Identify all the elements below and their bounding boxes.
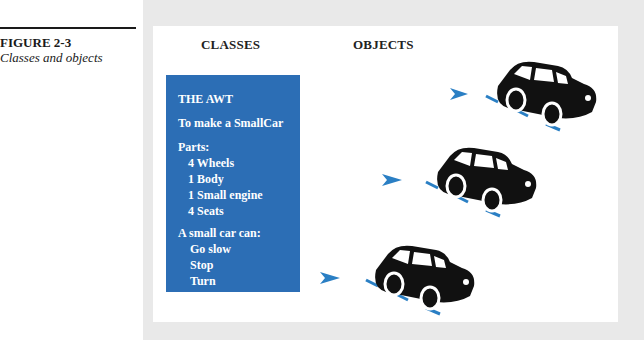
car-object-2: [380, 142, 550, 224]
class-title: THE AWT: [178, 92, 233, 107]
car-icon: [437, 148, 536, 211]
figure-rule: [0, 27, 136, 29]
arrow-icon: [382, 174, 402, 186]
abilities-label: A small car can:: [178, 226, 261, 241]
ability-item: Turn: [190, 274, 216, 289]
classes-header: CLASSES: [201, 37, 260, 53]
class-box: THE AWT To make a SmallCar Parts: 4 Whee…: [166, 75, 300, 292]
figure-number: FIGURE 2-3: [0, 35, 71, 51]
car-object-3: [318, 236, 488, 322]
figure-caption: Classes and objects: [0, 50, 103, 66]
parts-label: Parts:: [178, 140, 209, 155]
arrow-icon: [450, 88, 468, 100]
ability-item: Stop: [190, 258, 213, 273]
part-item: 4 Seats: [188, 204, 224, 219]
objects-header: OBJECTS: [353, 37, 414, 53]
arrow-icon: [320, 272, 340, 284]
car-icon: [375, 246, 474, 309]
class-subtitle: To make a SmallCar: [178, 116, 283, 131]
ability-item: Go slow: [190, 242, 231, 257]
part-item: 4 Wheels: [188, 156, 234, 171]
car-icon: [497, 62, 596, 125]
part-item: 1 Small engine: [188, 188, 263, 203]
part-item: 1 Body: [188, 172, 224, 187]
car-object-1: [448, 58, 608, 140]
